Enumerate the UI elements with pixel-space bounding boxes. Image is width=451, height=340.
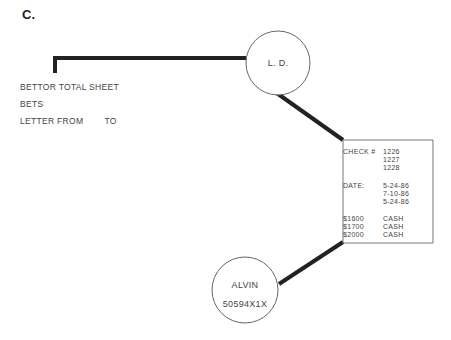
amount-3: $2000 <box>343 231 364 238</box>
document-item-letter: LETTER FROM TO <box>20 113 119 130</box>
connector-docs-to-ld <box>55 58 246 73</box>
date-label: DATE: <box>343 182 365 189</box>
check-number-3: 1228 <box>383 164 400 172</box>
alvin-node-label: ALVIN 50594X1X <box>212 276 278 314</box>
connector-ld-to-box <box>271 89 343 140</box>
check-label: CHECK # <box>343 148 375 155</box>
alvin-name: ALVIN <box>212 276 278 295</box>
date-1: 5-24-86 <box>383 182 409 190</box>
alvin-id: 50594X1X <box>212 295 278 314</box>
date-2: 7-10-86 <box>383 190 409 198</box>
method-1: CASH <box>383 215 404 223</box>
document-list: BETTOR TOTAL SHEET BETS LETTER FROM TO <box>20 79 119 130</box>
record-box: CHECK # 1226 1227 1228 DATE: 5-24-86 7-1… <box>343 140 433 243</box>
method-3: CASH <box>383 231 404 239</box>
document-item-bettor-total-sheet: BETTOR TOTAL SHEET <box>20 79 119 96</box>
document-item-bets: BETS <box>20 96 119 113</box>
check-number-1: 1226 <box>383 148 400 156</box>
ld-node-label: L. D. <box>246 58 310 68</box>
method-2: CASH <box>383 223 404 231</box>
amount-2: $1700 <box>343 223 364 230</box>
check-number-2: 1227 <box>383 156 400 164</box>
date-3: 5-24-86 <box>383 198 409 206</box>
amount-1: $1600 <box>343 215 364 222</box>
connector-box-to-alvin <box>279 242 343 284</box>
